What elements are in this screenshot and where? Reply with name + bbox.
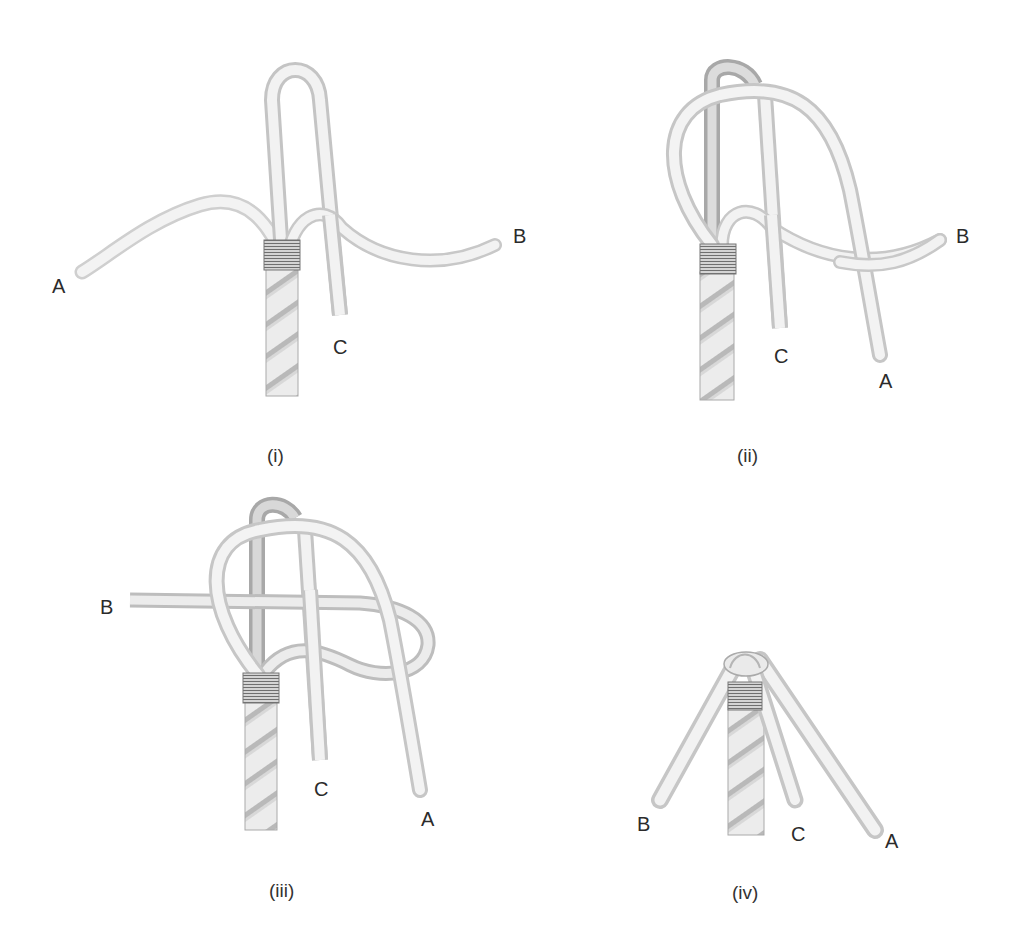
main-rope [266, 268, 298, 396]
crown-knot-diagram [0, 0, 1018, 951]
panel-iv-caption: (iv) [732, 883, 758, 903]
panel-iii-caption: (iii) [269, 881, 294, 901]
main-rope [245, 700, 277, 830]
panel-iv-label-b: B [637, 814, 650, 834]
whipping [264, 240, 300, 270]
panel-i-label-a: A [52, 276, 65, 296]
panel-ii-label-a: A [879, 371, 892, 391]
panel-ii-drawing [674, 67, 940, 400]
whipping [243, 673, 279, 703]
panel-i-drawing [82, 70, 495, 396]
panel-ii-label-b: B [956, 226, 969, 246]
panel-i-caption: (i) [267, 446, 284, 466]
panel-iii-label-a: A [421, 809, 434, 829]
panel-iii-label-c: C [314, 779, 328, 799]
panel-iv-label-c: C [791, 824, 805, 844]
panel-iv-drawing [660, 652, 875, 835]
panel-ii-label-c: C [774, 346, 788, 366]
panel-iii-drawing [130, 505, 428, 830]
panel-i-label-c: C [333, 337, 347, 357]
panel-ii-caption: (ii) [737, 446, 758, 466]
whipping [728, 682, 762, 710]
panel-iii-label-b: B [100, 597, 113, 617]
whipping [700, 244, 736, 274]
panel-iv-label-a: A [885, 831, 898, 851]
panel-i-label-b: B [513, 226, 526, 246]
main-rope [728, 705, 764, 835]
main-rope [700, 272, 734, 400]
